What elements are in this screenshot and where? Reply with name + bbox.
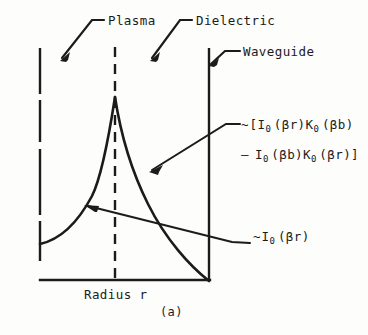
curve-dielectric-bracket [115, 97, 209, 281]
formula2-term1-fn: I [255, 148, 263, 162]
label-plasma: Plasma [108, 14, 156, 28]
formula1-term1-fn: I [257, 118, 265, 132]
formula1-term1-arg: (βr) [274, 118, 306, 132]
i0-sub: 0 [269, 237, 274, 247]
formula2-term2-arg: (βr) [319, 148, 351, 162]
i0-fn: I [262, 230, 270, 244]
label-formula-line2: – I 0 (βb) K 0 (βr) ] [241, 148, 359, 162]
panel-label: (a) [160, 306, 183, 319]
label-dielectric: Dielectric [196, 14, 275, 28]
formula1-term2-fn: K [306, 118, 314, 132]
formula1-term2-arg: (βb) [322, 118, 354, 132]
dielectric-leader-arrow [150, 20, 192, 62]
label-formula-line1: ~ [ I 0 (βr) K 0 (βb) [241, 118, 354, 132]
label-waveguide: Waveguide [243, 45, 314, 59]
figure-panel-a: Plasma Dielectric Waveguide ~ [ I 0 (βr)… [0, 0, 368, 335]
formula1-term2-sub: 0 [313, 125, 318, 135]
open-bracket-glyph: [ [250, 118, 258, 132]
tilde-glyph: ~ [253, 230, 261, 244]
formula1-term1-sub: 0 [265, 125, 270, 135]
waveguide-leader-arrow [209, 51, 240, 67]
formula2-term2-sub: 0 [311, 155, 316, 165]
formula2-term2-fn: K [303, 148, 311, 162]
formula-leader-arrow [149, 124, 240, 175]
i0-arg: (βr) [278, 230, 310, 244]
label-i0-asymptote: ~ I 0 (βr) [253, 230, 310, 244]
tilde-glyph: ~ [241, 118, 249, 132]
formula2-term1-sub: 0 [263, 155, 268, 165]
x-axis-label: Radius r [84, 288, 147, 302]
curve-plasma-I0 [40, 97, 115, 244]
plasma-leader-arrow [60, 20, 104, 62]
minus-glyph: – [241, 148, 249, 162]
formula2-term1-arg: (βb) [271, 148, 303, 162]
close-bracket-glyph: ] [351, 148, 359, 162]
